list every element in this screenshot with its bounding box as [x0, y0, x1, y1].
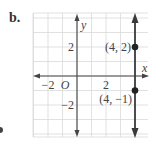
y-axis-arrow-up: [75, 14, 80, 21]
graph-point: [132, 87, 139, 94]
graph-point: [132, 44, 139, 51]
grid: [33, 13, 148, 137]
y-tick-label: 2: [68, 40, 74, 54]
x-tick-label: −2: [42, 78, 55, 92]
x-tick-label: 2: [103, 78, 109, 92]
point-label: (4, −1): [99, 92, 132, 106]
x-axis-arrow-left: [33, 74, 40, 79]
origin-label: O: [61, 78, 70, 92]
y-axis-label: y: [80, 18, 87, 32]
point-label: (4, 2): [105, 40, 131, 54]
graph-line-arrow-down: [132, 128, 139, 138]
x-axis-label: x: [141, 61, 148, 75]
y-tick-label: −2: [61, 98, 74, 112]
coordinate-graph: x y O −2 2 2 −2 (4, 2) (4, −1): [0, 0, 154, 145]
y-axis-arrow-down: [75, 130, 80, 137]
